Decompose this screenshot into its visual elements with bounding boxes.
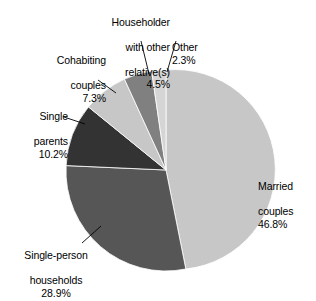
pie-label-cohabiting-line1: Cohabiting <box>57 54 106 66</box>
pie-label-married-couples: Married couples 46.8% <box>258 168 316 242</box>
pie-label-married-percent: 46.8% <box>258 218 316 230</box>
pie-label-householder-line2: with other <box>125 41 170 53</box>
pie-label-householder-line1: Householder <box>112 16 170 28</box>
pie-label-other-line1: Other <box>172 41 198 53</box>
pie-label-married-line2: couples <box>258 205 294 217</box>
pie-label-cohabiting-line2: couples <box>71 79 107 91</box>
pie-label-other: Other 2.3% <box>172 29 212 79</box>
pie-label-single-person-line1: Single-person <box>24 249 88 261</box>
pie-label-single-parents-line2: parents <box>34 135 68 147</box>
pie-label-married-line1: Married <box>258 180 293 192</box>
pie-label-single-person-households: Single-person households 28.9% <box>2 237 110 301</box>
pie-label-single-person-line2: households <box>30 274 83 286</box>
pie-label-single-person-percent: 28.9% <box>2 287 110 299</box>
pie-label-householder-line3: relative(s) <box>125 66 170 78</box>
pie-label-single-parents-percent: 10.2% <box>4 148 68 160</box>
pie-label-other-percent: 2.3% <box>172 54 212 66</box>
pie-label-single-parents: Single parents 10.2% <box>4 98 68 172</box>
pie-label-single-parents-line1: Single <box>39 110 68 122</box>
